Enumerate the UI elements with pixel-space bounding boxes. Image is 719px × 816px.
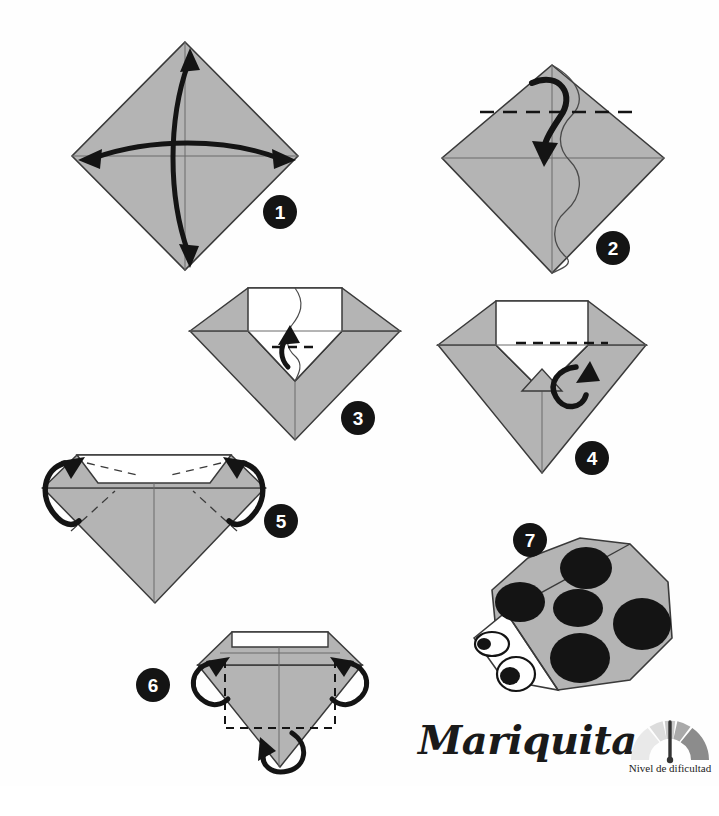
step-2-badge: 2 bbox=[596, 231, 630, 265]
page-bottom-edge bbox=[0, 786, 719, 816]
eye-pupil-upper bbox=[477, 638, 491, 650]
step-5-diagram bbox=[25, 435, 275, 615]
step-1-badge: 1 bbox=[263, 195, 297, 229]
step-3-diagram bbox=[180, 285, 410, 445]
step-5-badge: 5 bbox=[264, 504, 298, 538]
difficulty-gauge: Nivel de dificultad bbox=[627, 716, 713, 780]
step-6-figure bbox=[180, 615, 380, 790]
paper-diamond bbox=[442, 65, 664, 273]
eye-pupil-lower bbox=[500, 667, 520, 685]
step-6-diagram bbox=[180, 615, 380, 790]
step-7-badge: 7 bbox=[513, 523, 547, 557]
step-3-badge: 3 bbox=[341, 401, 375, 435]
step-1-figure bbox=[60, 30, 310, 280]
step-2-number: 2 bbox=[608, 239, 619, 258]
paper-white-panel bbox=[77, 455, 231, 483]
difficulty-label: Nivel de dificultad bbox=[627, 762, 713, 774]
step-3-figure bbox=[180, 285, 410, 445]
step-7-number: 7 bbox=[525, 531, 536, 550]
ladybird-figure bbox=[462, 530, 687, 710]
spot bbox=[613, 598, 671, 650]
step-6-number: 6 bbox=[148, 676, 159, 695]
gauge-dial bbox=[627, 716, 713, 762]
spot bbox=[560, 547, 612, 589]
paper-white-panel bbox=[232, 632, 328, 647]
spot bbox=[553, 589, 603, 627]
step-1-diagram bbox=[60, 30, 310, 280]
step-4-figure bbox=[430, 295, 655, 480]
step-5-number: 5 bbox=[276, 512, 287, 531]
step-2-diagram bbox=[440, 55, 680, 285]
model-title: Mariquita bbox=[418, 716, 637, 763]
step-7-figure bbox=[462, 530, 687, 710]
paper-lower-body bbox=[198, 665, 362, 767]
step-6-badge: 6 bbox=[136, 668, 170, 702]
step-4-diagram bbox=[430, 295, 655, 480]
step-4-number: 4 bbox=[587, 449, 598, 468]
step-3-number: 3 bbox=[353, 409, 364, 428]
step-2-figure bbox=[440, 55, 680, 285]
spot bbox=[495, 582, 545, 622]
step-1-number: 1 bbox=[275, 203, 286, 222]
spot bbox=[550, 633, 610, 683]
instruction-sheet: 1 2 bbox=[0, 0, 719, 816]
step-5-figure bbox=[25, 435, 275, 615]
step-4-badge: 4 bbox=[575, 441, 609, 475]
